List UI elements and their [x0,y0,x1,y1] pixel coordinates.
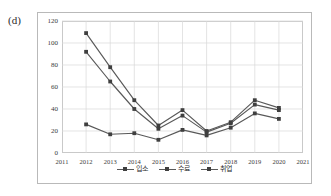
data-point-marker [157,138,161,142]
data-point-marker [132,107,136,111]
data-point-marker [253,112,257,116]
data-point-marker [108,80,112,84]
x-axis-tick-label: 2014 [128,158,141,165]
data-point-marker [108,132,112,136]
data-point-marker [181,108,185,112]
data-point-marker [84,123,88,127]
data-point-marker [229,121,233,125]
legend-marker-icon [159,166,176,173]
y-axis-tick-label: 100 [48,40,59,47]
data-point-marker [253,98,257,102]
data-point-marker [229,126,233,130]
data-point-marker [205,134,209,138]
legend-item-0[interactable]: 입소 [117,165,148,173]
legend-item-1[interactable]: 수료 [159,165,190,173]
data-point-marker [205,130,209,134]
data-point-marker [277,117,281,121]
chart-legend: 입소수료취업 [38,165,311,173]
data-point-marker [157,127,161,131]
x-axis-tick-label: 2012 [80,158,93,165]
data-point-marker [84,50,88,54]
y-axis-tick-label: 20 [51,128,58,135]
chart-series-layer [62,21,303,153]
data-point-marker [277,108,281,112]
x-axis-tick-label: 2020 [272,158,285,165]
chart-frame: 0204060801001202011201220132014201520162… [37,12,312,184]
legend-item-2[interactable]: 취업 [201,165,232,173]
x-axis-tick-label: 2017 [200,158,213,165]
plot-area: 0204060801001202011201220132014201520162… [62,21,303,153]
data-point-marker [181,114,185,118]
y-axis-tick-label: 120 [48,18,59,25]
x-axis-tick-label: 2018 [224,158,237,165]
data-point-marker [157,124,161,128]
y-axis-tick-label: 40 [51,106,58,113]
x-axis-tick-label: 2015 [152,158,165,165]
y-axis-tick-label: 80 [51,62,58,69]
x-axis-tick-label: 2016 [176,158,189,165]
panel-label: (d) [8,14,21,26]
x-axis-tick-label: 2011 [56,158,69,165]
legend-label: 취업 [220,165,232,173]
legend-label: 수료 [178,165,190,173]
x-axis-tick-label: 2021 [297,158,310,165]
x-axis-tick-label: 2019 [248,158,261,165]
data-point-marker [132,98,136,102]
data-point-marker [253,103,257,107]
legend-label: 입소 [136,165,148,173]
legend-marker-icon [201,166,218,173]
data-point-marker [108,65,112,69]
legend-marker-icon [117,166,134,173]
data-point-marker [132,131,136,135]
data-point-marker [181,128,185,132]
y-axis-tick-label: 0 [55,150,59,157]
x-axis-tick-label: 2013 [104,158,117,165]
y-axis-tick-label: 60 [51,84,58,91]
data-point-marker [84,31,88,35]
